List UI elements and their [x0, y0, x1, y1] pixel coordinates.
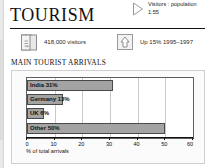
x-axis: 0 10 20 30 40 50 60 — [26, 137, 192, 138]
x-tick — [192, 137, 193, 140]
bar-row: Germany 13% — [27, 94, 63, 105]
chart-plot-area: India 31% Germany 13% UK 6% Other 50% — [26, 77, 194, 139]
x-tick-label: 30 — [106, 141, 112, 147]
section-title: MAIN TOURIST ARRIVALS — [11, 58, 106, 67]
x-tick — [164, 137, 165, 140]
ratio-text: Visitors : population 1:55 — [148, 1, 197, 16]
stats-row: 418,000 visitors Up 15% 1995–1997 — [10, 32, 206, 54]
x-tick-label: 10 — [50, 141, 56, 147]
visitors-population-ratio: Visitors : population 1:55 — [132, 1, 197, 16]
ratio-value: 1:55 — [148, 9, 197, 17]
up-arrow-icon — [116, 32, 134, 52]
x-tick-label: 0 — [25, 141, 28, 147]
bar-label-other: Other 50% — [30, 123, 60, 134]
bar-row: India 31% — [27, 80, 113, 91]
x-tick-label: 60 — [187, 141, 193, 147]
chart-panel: India 31% Germany 13% UK 6% Other 50% — [11, 70, 205, 164]
bar-row: UK 6% — [27, 108, 44, 119]
x-tick — [81, 137, 82, 140]
page-title: TOURISM — [10, 6, 95, 26]
x-axis-caption: % of total arrivals — [26, 148, 69, 154]
x-tick — [26, 137, 27, 140]
tourism-fact-panel: TOURISM Visitors : population 1:55 418,0… — [6, 0, 208, 168]
visitors-count-text: 418,000 visitors — [44, 39, 86, 45]
growth-text: Up 15% 1995–1997 — [140, 39, 193, 45]
bar-row: Other 50% — [27, 123, 165, 134]
ratio-label: Visitors : population — [148, 1, 197, 9]
page-edge-block — [0, 40, 3, 140]
bar-label-india: India 31% — [30, 80, 58, 91]
stat-visitors: 418,000 visitors — [20, 32, 86, 52]
x-tick-label: 50 — [161, 141, 167, 147]
x-tick-label: 20 — [78, 141, 84, 147]
stat-growth: Up 15% 1995–1997 — [116, 32, 193, 52]
x-tick-label: 40 — [133, 141, 139, 147]
suitcase-icon — [20, 32, 38, 52]
bar-label-uk: UK 6% — [30, 108, 49, 119]
triangle-right-icon — [132, 2, 144, 16]
x-tick — [109, 137, 110, 140]
gridline-50 — [165, 78, 166, 138]
x-tick — [137, 137, 138, 140]
x-tick — [54, 137, 55, 140]
bar-label-germany: Germany 13% — [30, 94, 70, 105]
